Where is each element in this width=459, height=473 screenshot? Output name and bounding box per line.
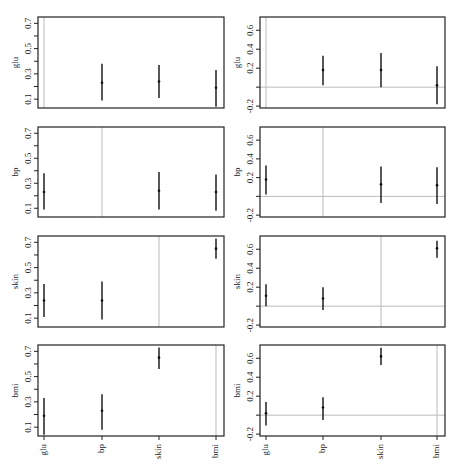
plot-frame (38, 345, 224, 436)
plot-frame (38, 236, 224, 327)
y-tick-label: -0.2 (245, 427, 255, 441)
y-tick-label: 0.3 (23, 287, 33, 299)
estimate-point (380, 69, 383, 72)
y-tick-label: 0.7 (23, 345, 33, 357)
y-tick-label: 0.7 (23, 236, 33, 248)
y-axis-label: bp (10, 167, 20, 177)
y-tick-label: 0.6 (245, 352, 255, 364)
y-axis-label: bmi (10, 383, 20, 398)
plot-frame (260, 345, 445, 436)
plot-frame (38, 127, 224, 217)
y-tick-label: -0.2 (245, 318, 255, 332)
y-tick-label: 0.1 (23, 422, 33, 433)
y-tick-label: 0.2 (245, 63, 255, 74)
y-tick-label: 0.1 (23, 203, 33, 214)
x-tick-label: glu (260, 444, 270, 456)
y-axis-label: bp (232, 167, 242, 177)
estimate-point (43, 299, 46, 302)
y-axis-label: skin (10, 274, 20, 290)
y-tick-label: 0.7 (23, 127, 33, 139)
estimate-point (436, 84, 439, 87)
y-tick-label: 0.5 (23, 370, 33, 382)
y-tick-label: 0.2 (245, 172, 255, 183)
panel-row1-right: -0.20.20.40.6glu (232, 17, 445, 113)
y-tick-label: -0.2 (245, 208, 255, 222)
x-tick-label: bmi (210, 444, 220, 459)
estimate-point (158, 356, 161, 359)
x-tick-label: skin (375, 444, 385, 460)
y-tick-label: 0.4 (245, 371, 255, 383)
panel-row2-left: 0.10.30.50.7bp (10, 127, 224, 217)
y-tick-label: 0.5 (23, 42, 33, 54)
estimate-point (215, 247, 218, 250)
interval-plot-grid: 0.10.30.50.7glu-0.20.20.40.6glu0.10.30.5… (0, 0, 459, 473)
y-tick-label: 0.4 (245, 43, 255, 55)
y-tick-label: 0.2 (245, 282, 255, 293)
y-tick-label: -0.2 (245, 99, 255, 113)
y-tick-label: 0.2 (245, 391, 255, 402)
estimate-point (101, 299, 104, 302)
panel-row1-left: 0.10.30.50.7glu (10, 17, 224, 108)
estimate-point (101, 81, 104, 84)
plot-frame (260, 127, 445, 217)
estimate-point (380, 355, 383, 358)
plot-frame (38, 17, 224, 108)
y-axis-label: bmi (232, 383, 242, 398)
estimate-point (101, 409, 104, 412)
y-tick-label: 0.1 (23, 313, 33, 324)
estimate-point (215, 86, 218, 89)
estimate-point (322, 297, 325, 300)
y-tick-label: 0.5 (23, 152, 33, 164)
y-tick-label: 0.3 (23, 396, 33, 408)
estimate-point (322, 406, 325, 409)
estimate-point (380, 183, 383, 186)
x-tick-label: skin (153, 444, 163, 460)
y-tick-label: 0.3 (23, 68, 33, 80)
estimate-point (158, 80, 161, 83)
estimate-point (436, 247, 439, 250)
estimate-point (158, 189, 161, 192)
estimate-point (215, 191, 218, 194)
y-tick-label: 0.4 (245, 262, 255, 274)
y-axis-label: glu (232, 56, 242, 68)
panel-row2-right: -0.20.20.40.6bp (232, 127, 445, 222)
x-tick-label: bp (96, 444, 106, 454)
panel-row4-left: 0.10.30.50.7bmiglubpskinbmi (10, 345, 224, 459)
y-tick-label: 0.3 (23, 177, 33, 189)
y-tick-label: 0.4 (245, 153, 255, 165)
estimate-point (265, 178, 268, 181)
panel-row3-right: -0.20.20.40.6skin (232, 236, 445, 332)
estimate-point (322, 69, 325, 72)
y-tick-label: 0.1 (23, 94, 33, 105)
panel-row4-right: -0.20.20.40.6bmiglubpskinbmi (232, 345, 445, 459)
y-tick-label: 0.7 (23, 17, 33, 29)
x-tick-label: bp (317, 444, 327, 454)
y-axis-label: skin (232, 274, 242, 290)
chart-canvas: 0.10.30.50.7glu-0.20.20.40.6glu0.10.30.5… (0, 0, 459, 473)
y-tick-label: 0.6 (245, 243, 255, 255)
estimate-point (265, 294, 268, 297)
estimate-point (265, 412, 268, 415)
panel-row3-left: 0.10.30.50.7skin (10, 236, 224, 327)
estimate-point (43, 191, 46, 194)
plot-frame (260, 236, 445, 327)
plot-frame (260, 17, 445, 108)
x-tick-label: glu (38, 444, 48, 456)
y-tick-label: 0.6 (245, 134, 255, 146)
y-tick-label: 0.6 (245, 24, 255, 36)
estimate-point (43, 414, 46, 417)
x-tick-label: bmi (431, 444, 441, 459)
y-tick-label: 0.5 (23, 261, 33, 273)
y-axis-label: glu (10, 56, 20, 68)
estimate-point (436, 184, 439, 187)
